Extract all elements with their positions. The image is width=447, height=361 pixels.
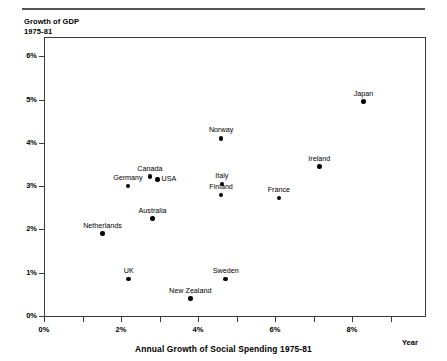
x-tick [237, 317, 238, 322]
x-tick [160, 317, 161, 322]
y-tick-label-text: 5% [26, 95, 37, 104]
y-tick-label-text: 0% [26, 311, 37, 320]
data-point-label: New Zealand [169, 286, 211, 295]
x-tick-label-text: 4% [178, 325, 218, 334]
x-tick-label-text: 0% [24, 325, 64, 334]
y-tick [39, 273, 44, 274]
x-tick-label-text: 6% [255, 325, 295, 334]
y-tick-label: 1% [0, 268, 37, 278]
data-point-label: Japan [354, 89, 374, 98]
data-point-label: Ireland [308, 154, 330, 163]
plot-frame-top [44, 37, 426, 38]
data-point[interactable] [150, 216, 155, 221]
data-point[interactable] [100, 231, 105, 236]
y-tick [39, 186, 44, 187]
y-tick-label-text: 3% [26, 181, 37, 190]
y-tick-label: 3% [0, 181, 37, 191]
x-tick [83, 317, 84, 322]
y-tick-label-text: 2% [26, 224, 37, 233]
x-tick-label: 2% [101, 325, 141, 336]
y-tick-label-text: 1% [26, 268, 37, 277]
data-point[interactable] [277, 196, 282, 201]
y-tick [39, 143, 44, 144]
y-tick-label: 5% [0, 95, 37, 105]
data-point-label: USA [162, 174, 177, 183]
y-tick [39, 56, 44, 57]
data-point[interactable] [219, 136, 224, 141]
data-point-label: Sweden [213, 266, 239, 275]
x-axis-line [44, 316, 426, 317]
data-point-label: Netherlands [83, 221, 122, 230]
data-point-label: Canada [137, 164, 162, 173]
y-tick-label-text: 4% [26, 138, 37, 147]
y-tick-label-text: 6% [26, 51, 37, 60]
x-tick [275, 317, 276, 322]
x-tick-label: 0% [24, 325, 64, 336]
y-tick [39, 229, 44, 230]
data-point[interactable] [188, 296, 193, 301]
chart-page: Growth of GDP 1975-81 0%1%2%3%4%5%6% 0%2… [0, 0, 447, 361]
data-point[interactable] [126, 184, 131, 189]
data-point-label: Norway [209, 125, 233, 134]
data-point-label: UK [124, 266, 134, 275]
x-tick-label: 4% [178, 325, 218, 336]
x-tick-label: 6% [255, 325, 295, 336]
data-point-label: France [268, 185, 290, 194]
data-point[interactable] [361, 99, 366, 104]
x-tick [44, 317, 45, 322]
data-point[interactable] [155, 177, 160, 182]
plot-frame-right [425, 37, 426, 317]
y-axis-line [44, 37, 45, 317]
data-point[interactable] [126, 277, 131, 282]
x-axis-title: Annual Growth of Social Spending 1975-81 [0, 344, 447, 354]
x-tick [121, 317, 122, 322]
data-point[interactable] [317, 164, 322, 169]
data-point-label: Finland [209, 182, 233, 191]
y-tick-label: 6% [0, 51, 37, 61]
x-tick [352, 317, 353, 322]
y-tick-label: 2% [0, 224, 37, 234]
data-point[interactable] [223, 277, 228, 282]
x-tick-label: 8% [332, 325, 372, 336]
y-tick-label: 4% [0, 138, 37, 148]
y-tick [39, 100, 44, 101]
data-point-label: Italy [215, 171, 228, 180]
data-point-label: Germany [113, 173, 143, 182]
x-tick [198, 317, 199, 322]
x-tick-label-text: 2% [101, 325, 141, 334]
y-tick-label: 0% [0, 311, 37, 321]
x-tick [391, 317, 392, 322]
data-point-label: Australia [139, 206, 167, 215]
y-axis-title: Growth of GDP 1975-81 [24, 17, 79, 37]
data-point[interactable] [148, 174, 153, 179]
header-rule [22, 8, 425, 10]
data-point[interactable] [219, 193, 224, 198]
x-tick [314, 317, 315, 322]
x-tick-label-text: 8% [332, 325, 372, 334]
